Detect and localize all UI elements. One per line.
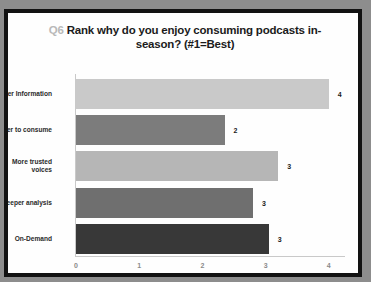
x-axis-tick-label: 0	[66, 262, 86, 269]
bar	[76, 224, 269, 254]
bar-row: Better Information4	[8, 79, 348, 109]
slide-canvas: Q6 Rank why do you enjoy consuming podca…	[8, 13, 358, 273]
category-label: Faster to consume	[4, 126, 52, 134]
bar-value-label: 4	[338, 91, 342, 98]
x-axis-tick-label: 1	[129, 262, 149, 269]
chart-plot-area: Better Information4Faster to consume2Mor…	[8, 13, 362, 277]
bar-value-label: 3	[287, 163, 291, 170]
category-label: Better Information	[4, 90, 52, 98]
x-axis-line	[75, 256, 345, 257]
bar-value-label: 3	[278, 235, 282, 242]
bar-row: On-Demand3	[8, 224, 348, 254]
bar	[76, 188, 253, 218]
bar-value-label: 3	[262, 199, 266, 206]
category-label: More trusted voices	[4, 158, 52, 174]
bar-row: Deeper analysis3	[8, 188, 348, 218]
bar	[76, 79, 329, 109]
x-axis-tick-label: 2	[192, 262, 212, 269]
bar	[76, 115, 225, 145]
x-axis-tick-label: 3	[256, 262, 276, 269]
bar-value-label: 2	[234, 127, 238, 134]
x-axis-tick-label: 4	[319, 262, 339, 269]
category-label: Deeper analysis	[4, 199, 52, 207]
bar-row: More trusted voices3	[8, 151, 348, 181]
slide-frame: Q6 Rank why do you enjoy consuming podca…	[4, 9, 362, 277]
screen-surround: Q6 Rank why do you enjoy consuming podca…	[0, 0, 371, 282]
bar-row: Faster to consume2	[8, 115, 348, 145]
category-label: On-Demand	[4, 235, 52, 243]
bar	[76, 151, 278, 181]
